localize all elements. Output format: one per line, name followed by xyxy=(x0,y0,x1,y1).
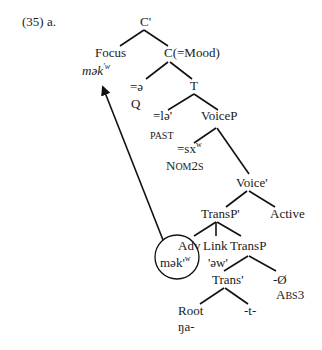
edge-voicebar-transpbar xyxy=(226,191,247,207)
edge-transpbar-adv xyxy=(194,222,216,236)
root-form: ŋa- xyxy=(178,319,195,334)
node-transp-bar: TransP' xyxy=(201,206,240,221)
t-suffix: -t- xyxy=(244,303,256,318)
edge-transpbar-transp xyxy=(217,222,241,236)
past-gloss: PAST xyxy=(150,130,174,141)
example-label: (35) a. xyxy=(22,14,56,29)
past-form: =lə' xyxy=(153,108,172,123)
edge-voicebar-active xyxy=(249,191,275,207)
nom-form: =sxw xyxy=(177,140,202,156)
syntax-tree-diagram: (35) a. C' Focus mək'w C(=Mood) =ə Q T =… xyxy=(0,0,322,350)
edge-cbar-focus xyxy=(120,30,144,46)
edge-cbar-cmood xyxy=(144,30,168,46)
edge-cmood-t xyxy=(170,62,192,79)
node-adv: Adv xyxy=(178,238,201,253)
tree-svg: (35) a. C' Focus mək'w C(=Mood) =ə Q T =… xyxy=(0,0,322,350)
edge-transbar-root xyxy=(200,288,224,304)
edge-transbar-t xyxy=(225,288,248,304)
edge-cmood-q xyxy=(146,62,168,79)
nom-gloss: NOM2S xyxy=(166,158,204,173)
node-focus: Focus xyxy=(95,45,126,60)
q-gloss: Q xyxy=(131,96,141,111)
node-root: Root xyxy=(178,303,204,318)
q-form: =ə xyxy=(130,79,143,94)
edge-voicep-voicebar xyxy=(217,128,249,174)
edge-transp-abs xyxy=(249,256,276,271)
node-voice-bar: Voice' xyxy=(236,175,268,190)
node-voicep: VoiceP xyxy=(201,108,238,123)
node-transp: TransP xyxy=(230,238,266,253)
node-active: Active xyxy=(270,206,305,221)
node-t: T xyxy=(190,78,198,93)
node-trans-bar: Trans' xyxy=(212,272,243,287)
node-c-bar: C' xyxy=(140,14,151,29)
node-c-mood: C(=Mood) xyxy=(164,45,220,60)
adv-form: mək'w xyxy=(160,254,191,270)
node-link: Link xyxy=(203,238,228,253)
abs-form: -Ø xyxy=(273,272,287,287)
focus-form: mək'w xyxy=(82,62,111,78)
link-form: 'əw' xyxy=(208,255,228,270)
abs-gloss: ABS3 xyxy=(276,287,304,302)
